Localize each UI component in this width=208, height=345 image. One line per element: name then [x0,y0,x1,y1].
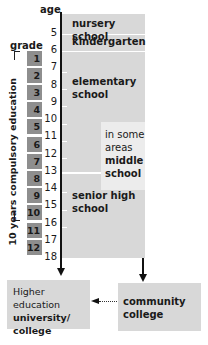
middle-note-line: areas [105,141,145,154]
grade-box: 9 [27,188,42,203]
grade-box: 2 [27,68,42,83]
age-label: 16 [43,217,57,229]
grade-header: grade [10,40,43,51]
age-label: 6 [43,44,57,56]
community-college-label: community [123,295,186,308]
arrow-down-icon [57,268,65,276]
age-label: 17 [43,234,57,246]
higher-ed-label: college [13,324,90,337]
grade-box: 11 [27,223,42,238]
stage-middle-school: in some areas middle school [101,122,145,190]
middle-note-line: in some [105,128,145,141]
age-label: 9 [43,96,57,108]
age-tick [62,158,67,159]
grade-box: 7 [27,154,42,169]
age-tick [62,227,67,228]
age-label: 18 [43,251,57,263]
grade-box: 6 [27,137,42,152]
middle-label-line: school [105,167,145,180]
age-label: 5 [43,27,57,39]
higher-ed-label: university/ [13,311,90,324]
stage-kindergarten: kindergarten [72,35,146,48]
age-tick [62,72,67,73]
dotted-arrow-line [99,301,117,302]
grade-box: 3 [27,85,42,100]
age-label: 10 [43,113,57,125]
age-tick [62,124,67,125]
age-axis-line [60,12,62,270]
divider [62,51,145,52]
age-label: 7 [43,61,57,73]
grade-box: 4 [27,102,42,117]
age-label: 12 [43,148,57,160]
grade-box: 10 [27,205,42,220]
age-tick [62,106,67,107]
arrow-left-icon [91,298,99,304]
grade-box: 12 [27,240,42,255]
age-tick [62,210,67,211]
middle-label-line: middle [105,154,145,167]
bracket-top [14,51,20,60]
grade-box: 1 [27,51,42,66]
community-college-label: college [123,308,186,321]
stage-senior-high-school: senior high school [72,189,135,215]
arrow-down-icon [139,274,147,282]
grade-box: 8 [27,171,42,186]
community-college-box: community college [118,283,201,331]
age-tick [62,141,67,142]
compulsory-education-label: 10 years compulsory education [7,106,18,246]
age-label: 14 [43,182,57,194]
age-label: 15 [43,199,57,211]
age-label: 11 [43,130,57,142]
age-tick [62,89,67,90]
age-label: 8 [43,79,57,91]
grade-box: 5 [27,119,42,134]
age-tick [62,192,67,193]
higher-education-box: Higher education university/ college [7,280,90,329]
age-header: age [40,4,61,15]
stage-elementary-school: elementary school [72,75,136,101]
age-label: 13 [43,165,57,177]
higher-ed-title: Higher education [13,285,90,311]
